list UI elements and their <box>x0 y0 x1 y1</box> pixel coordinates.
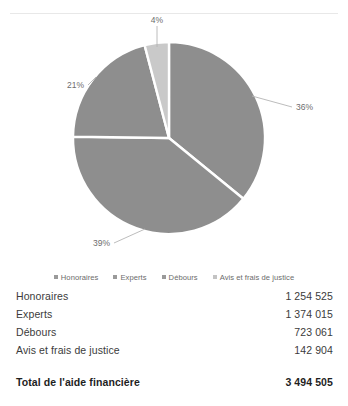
pie-label-avis-pct: 4% <box>151 15 164 25</box>
amounts-table: Honoraires 1 254 525 Experts 1 374 015 D… <box>0 290 348 394</box>
legend-item-label: Honoraires <box>61 273 99 282</box>
financial-aid-pie-report: 4% 21% 36% 39% Honoraires Experts Débour… <box>0 0 348 406</box>
pie-chart-svg: 4% 21% 36% 39% <box>0 14 348 262</box>
pie-slices <box>73 42 265 234</box>
legend-item-debours[interactable]: Débours <box>162 273 198 282</box>
pie-chart-area: 4% 21% 36% 39% <box>0 14 348 262</box>
pie-label-honoraires-pct: 36% <box>296 102 313 112</box>
legend-marker-square-icon <box>54 275 58 279</box>
legend-marker-square-icon <box>162 275 166 279</box>
pie-label-experts-pct: 39% <box>93 238 110 248</box>
row-value: 1 374 015 <box>285 308 333 320</box>
legend-item-honoraires[interactable]: Honoraires <box>54 273 99 282</box>
table-total-row: Total de l'aide financière 3 494 505 <box>0 376 348 394</box>
table-row: Avis et frais de justice 142 904 <box>0 344 348 362</box>
table-row: Honoraires 1 254 525 <box>0 290 348 308</box>
legend-marker-square-icon <box>213 275 217 279</box>
chart-legend: Honoraires Experts Débours Avis et frais… <box>0 268 348 286</box>
legend-item-label: Avis et frais de justice <box>220 273 295 282</box>
legend-item-experts[interactable]: Experts <box>113 273 146 282</box>
legend-item-avis-et-frais-de-justice[interactable]: Avis et frais de justice <box>213 273 295 282</box>
table-row: Débours 723 061 <box>0 326 348 344</box>
legend-item-label: Débours <box>169 273 198 282</box>
row-value: 1 254 525 <box>285 290 333 302</box>
total-value: 3 494 505 <box>285 376 333 388</box>
row-value: 723 061 <box>294 326 333 338</box>
total-label: Total de l'aide financière <box>16 376 140 388</box>
leader-line-experts <box>114 229 145 243</box>
legend-item-label: Experts <box>120 273 146 282</box>
row-label: Experts <box>16 308 52 320</box>
table-row: Experts 1 374 015 <box>0 308 348 326</box>
pie-label-debours-pct: 21% <box>67 80 84 90</box>
row-label: Débours <box>16 326 56 338</box>
row-label: Honoraires <box>16 290 68 302</box>
legend-marker-square-icon <box>113 275 117 279</box>
row-label: Avis et frais de justice <box>16 344 120 356</box>
row-value: 142 904 <box>294 344 333 356</box>
